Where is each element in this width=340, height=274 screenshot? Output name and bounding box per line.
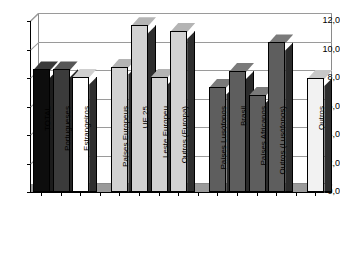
y-tick-mark bbox=[27, 21, 31, 22]
x-tick-mark bbox=[178, 192, 179, 196]
x-tick-label: Leste Europeu bbox=[162, 106, 170, 196]
y-tick-mark bbox=[27, 107, 31, 108]
x-tick-mark bbox=[80, 192, 81, 196]
y-tick-mark bbox=[27, 164, 31, 165]
x-tick-mark bbox=[315, 192, 316, 196]
x-tick-mark bbox=[217, 192, 218, 196]
x-tick-mark bbox=[198, 192, 199, 196]
x-tick-label: Outros (Lusófonos) bbox=[279, 106, 287, 196]
x-tick-label: Portugueses bbox=[64, 106, 72, 196]
y-tick-mark bbox=[27, 78, 31, 79]
x-tick-label: UE 25 bbox=[142, 106, 150, 196]
x-tick-mark bbox=[159, 192, 160, 196]
x-tick-mark bbox=[61, 192, 62, 196]
x-tick-label: Países Africanos bbox=[260, 106, 268, 196]
y-tick-label: 10,0 bbox=[314, 45, 340, 54]
x-tick-mark bbox=[276, 192, 277, 196]
y-tick-mark bbox=[27, 192, 31, 193]
y-tick-mark bbox=[27, 135, 31, 136]
x-tick-mark bbox=[257, 192, 258, 196]
x-tick-label: Países Europeus bbox=[122, 106, 130, 196]
x-tick-label: Outros (Europa) bbox=[181, 106, 189, 196]
x-tick-mark bbox=[237, 192, 238, 196]
x-tick-mark bbox=[139, 192, 140, 196]
y-tick-mark bbox=[27, 50, 31, 51]
x-tick-mark bbox=[119, 192, 120, 196]
y-tick-label: 12,0 bbox=[314, 16, 340, 25]
x-tick-label: Países Lusófonos bbox=[220, 106, 228, 196]
x-tick-mark bbox=[41, 192, 42, 196]
x-tick-mark bbox=[100, 192, 101, 196]
x-tick-label: TOTAL bbox=[44, 106, 52, 196]
x-tick-label: Brasil bbox=[240, 106, 248, 196]
bar-chart: 0,02,04,06,08,010,012,0 TOTALPortugueses… bbox=[0, 0, 340, 274]
x-tick-label: Outros bbox=[318, 106, 326, 196]
x-tick-label: Estrangeiros bbox=[83, 106, 91, 196]
gridline bbox=[38, 13, 332, 14]
x-tick-mark bbox=[296, 192, 297, 196]
